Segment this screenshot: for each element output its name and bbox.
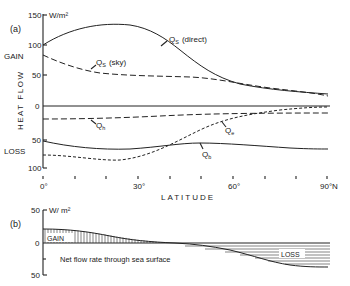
b-y-tick-neg50: 50 — [31, 271, 40, 280]
y-unit-label: W/m² — [49, 11, 68, 20]
qb-annotation: Qb — [200, 143, 211, 160]
svg-text:Qe: Qe — [225, 126, 234, 136]
b-y-unit-label: W/ m² — [49, 206, 71, 215]
y-tick-50: 50 — [32, 71, 41, 80]
svg-text:QS(sky): QS(sky) — [96, 58, 127, 68]
svg-text:QS(direct): QS(direct) — [169, 35, 207, 45]
y-tick-neg50: 50 — [32, 136, 41, 145]
svg-text:Qh: Qh — [96, 121, 105, 131]
panel-a: (a) GAIN LOSS HEAT FLOW 150 W/m² 100 50 … — [4, 11, 338, 202]
qs-sky-curve — [43, 55, 328, 96]
figure: (a) GAIN LOSS HEAT FLOW 150 W/m² 100 50 … — [0, 0, 350, 286]
b-caption: Net flow rate through sea surface — [60, 255, 170, 264]
qh-curve — [43, 113, 328, 119]
qe-annotation: Qe — [222, 122, 234, 136]
x-tick-90: 90°N — [320, 182, 338, 191]
x-axis-title: LATITUDE — [161, 193, 215, 202]
panel-a-label: (a) — [10, 24, 21, 34]
y-tick-150: 150 — [28, 11, 42, 20]
qb-curve — [43, 141, 328, 149]
y-axis-title: HEAT FLOW — [16, 71, 25, 130]
y-tick-neg100: 100 — [28, 164, 42, 173]
y-ticks — [43, 15, 47, 168]
x-ticks — [43, 176, 327, 179]
x-tick-60: 60° — [228, 182, 240, 191]
svg-text:Qb: Qb — [202, 150, 211, 160]
panel-b: (b) 50 W/ m² 0 50 GAIN LOSS — [10, 206, 330, 280]
qs-sky-annotation: QS(sky) — [91, 58, 127, 69]
qe-curve — [43, 107, 328, 160]
b-loss-label: LOSS — [281, 251, 300, 258]
gain-label: GAIN — [4, 52, 24, 61]
loss-label: LOSS — [4, 147, 25, 156]
y-tick-0: 0 — [35, 102, 40, 111]
b-y-tick-0: 0 — [35, 239, 40, 248]
y-tick-100: 100 — [28, 41, 42, 50]
b-gain-label: GAIN — [47, 235, 64, 242]
x-tick-0: 0° — [40, 182, 48, 191]
panel-b-label: (b) — [10, 219, 21, 229]
qh-annotation: Qh — [91, 120, 105, 131]
x-tick-30: 30° — [133, 182, 145, 191]
loss-hatch — [185, 246, 330, 264]
b-y-tick-50: 50 — [31, 206, 40, 215]
